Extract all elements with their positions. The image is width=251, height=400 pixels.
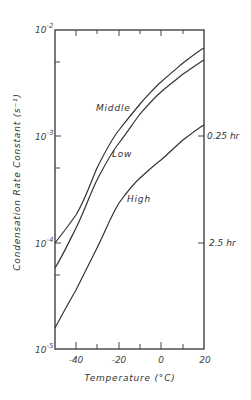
svg-text:0: 0 <box>158 355 164 365</box>
y-tick-labels: 10-2 10-3 10-4 10-5 <box>35 22 54 355</box>
series-label-high: High <box>127 194 151 204</box>
svg-text:10-4: 10-4 <box>35 236 53 249</box>
curve-middle <box>55 48 204 243</box>
x-tick-labels: -40 -20 0 20 <box>69 355 211 365</box>
chart: Middle Low High 0.25 hr 2.5 hr 10-2 10-3… <box>0 0 251 400</box>
svg-text:10-5: 10-5 <box>35 342 54 355</box>
series-label-middle: Middle <box>96 103 131 113</box>
x-axis-title: Temperature (°C) <box>84 373 175 383</box>
svg-text:20: 20 <box>199 355 211 365</box>
right-annotation-025hr: 0.25 hr <box>207 131 241 141</box>
curve-low <box>55 60 204 268</box>
bottom-ticks <box>76 342 183 349</box>
series-label-low: Low <box>112 149 132 159</box>
left-ticks <box>55 62 61 275</box>
right-ticks <box>198 136 204 243</box>
svg-text:10-2: 10-2 <box>35 22 54 35</box>
svg-text:-20: -20 <box>112 355 127 365</box>
right-annotation-25hr: 2.5 hr <box>209 238 237 248</box>
svg-text:-40: -40 <box>69 355 84 365</box>
top-ticks <box>76 30 183 36</box>
y-axis-title: Condensation Rate Constant (s⁻¹) <box>12 93 22 270</box>
svg-text:10-3: 10-3 <box>35 129 53 142</box>
